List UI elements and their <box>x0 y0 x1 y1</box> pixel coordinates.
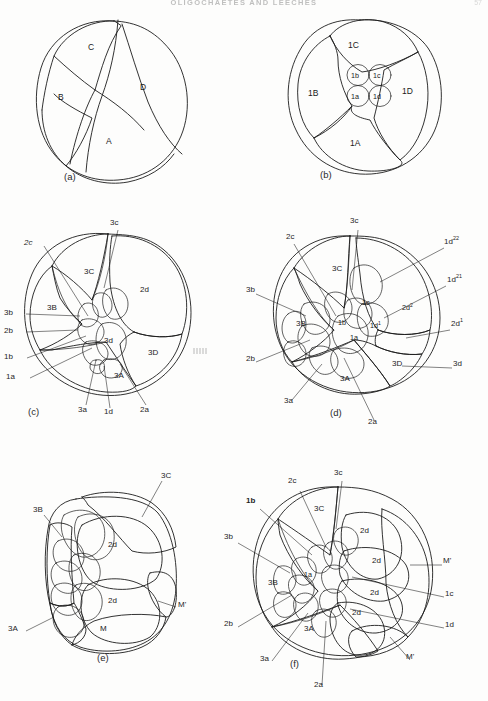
leader-label-1b-f: 1b <box>246 497 255 505</box>
leader-label-2a-d: 2a <box>368 418 377 426</box>
cell-label-1b: 1B <box>308 88 319 98</box>
leader-label-3d-d: 3d <box>453 360 462 368</box>
panel-d: 3C 3B 3A 3D 1b 1c 1a 1d1 2d2 3c 2c 1d22 … <box>244 212 488 432</box>
cell-label-2d-f-1: 2d <box>360 526 369 535</box>
leader-label-2c-f: 2c <box>288 477 296 485</box>
running-head: OLIGOCHAETES AND LEECHES <box>0 0 488 7</box>
leader-label-1d21-d: 1d21 <box>447 276 462 284</box>
leader-label-1b: 1b <box>4 353 13 361</box>
cell-label-3B: 3B <box>47 303 57 312</box>
cell-label-1a-f: 1a <box>304 570 312 579</box>
leader-label-3a-d: 3a <box>284 397 293 405</box>
panel-caption-f: (f) <box>290 658 299 669</box>
leader-label-2c-d: 2c <box>286 233 294 241</box>
leader-label-3a: 3a <box>78 406 87 414</box>
leader-label-3c-f: 3c <box>334 469 342 477</box>
panel-caption-a: (a) <box>64 171 76 182</box>
leader-label-2a-f: 2a <box>314 681 323 689</box>
cell-label-1a-d: 1a <box>350 333 358 342</box>
leader-label-Mprime-f-right: M' <box>443 557 451 565</box>
leader-label-3A-e: 3A <box>8 625 18 633</box>
panel-a: C B D A (a) <box>18 14 198 194</box>
cell-label-c: C <box>88 42 94 52</box>
panel-caption-b: (b) <box>320 169 332 180</box>
leader-label-2c: 2c <box>24 239 32 247</box>
leader-label-1a: 1a <box>6 373 15 381</box>
leader-label-1c-f: 1c <box>445 590 453 598</box>
cell-label-3C-d: 3C <box>332 264 342 273</box>
leader-label-2b-f: 2b <box>224 620 233 628</box>
leader-label-3b-d: 3b <box>246 286 255 294</box>
panel-caption-d: (d) <box>330 407 342 418</box>
panel-f: 3C 3B 3A 1a 2d 2d 2d 2d 3c 2c 1b 3b 2b 3… <box>220 455 488 701</box>
micromere-label-1d: 1d <box>373 92 381 101</box>
cell-label-3A-f: 3A <box>304 624 314 633</box>
leader-label-Mprime-f-bottom: M' <box>406 653 414 661</box>
cell-label-a: A <box>106 136 112 146</box>
micromere-label-1c: 1c <box>373 71 381 80</box>
cell-label-1d1-d: 1d1 <box>370 320 381 330</box>
cell-label-2d-e-top: 2d <box>108 540 117 549</box>
leader-label-2b: 2b <box>4 327 13 335</box>
panel-caption-e: (e) <box>97 652 109 663</box>
cell-label-2d-f-2: 2d <box>372 556 381 565</box>
cell-label-1a: 1A <box>350 138 361 148</box>
figure-page: OLIGOCHAETES AND LEECHES 57 <box>0 0 488 701</box>
leader-label-3c-d: 3c <box>350 217 358 225</box>
panel-c: 3C 3B 2d 3d 3D 3A 2c 3c 3b 2b 1b 1a 3a 1… <box>0 212 244 432</box>
cell-label-2d-f-3: 2d <box>370 588 379 597</box>
panel-b: 1C 1B 1D 1A 1b 1c 1a 1d (b) <box>272 14 452 194</box>
cell-label-2d2-d: 2d2 <box>402 302 413 312</box>
cell-label-2d-e-bottom: 2d <box>108 596 117 605</box>
leader-label-3B-e: 3B <box>33 506 43 514</box>
cell-label-3d: 3d <box>104 336 113 345</box>
panel-c-drawing: 3C 3B 2d 3d 3D 3A <box>0 212 244 432</box>
leader-label-3C-e: 3C <box>161 472 171 480</box>
cell-label-d: D <box>140 82 146 92</box>
leader-label-2b-d: 2b <box>246 355 255 363</box>
leader-label-2d1-d: 2d1 <box>451 320 463 328</box>
cell-label-3B-f: 3B <box>268 578 278 587</box>
leader-label-1d-f: 1d <box>445 621 454 629</box>
panel-e-drawing: 2d 2d M <box>0 455 244 701</box>
panel-f-drawing: 3C 3B 3A 1a 2d 2d 2d 2d <box>220 455 488 701</box>
cell-label-2d-f-4: 2d <box>352 608 361 617</box>
micromere-label-1b: 1b <box>351 71 359 80</box>
micromere-label-1a: 1a <box>351 92 359 101</box>
leader-label-2a: 2a <box>140 406 149 414</box>
cell-label-3D: 3D <box>148 348 158 357</box>
leader-label-3b: 3b <box>4 309 13 317</box>
cell-label-1d: 1D <box>402 86 413 96</box>
cell-label-2d: 2d <box>140 285 149 294</box>
leader-label-1d: 1d <box>104 408 113 416</box>
cell-label-3D-d: 3D <box>392 359 402 368</box>
cell-label-3C: 3C <box>84 267 94 276</box>
cell-label-3C-f: 3C <box>314 504 324 513</box>
cell-label-1c-d: 1c <box>362 298 370 307</box>
leader-label-1d22-d: 1d22 <box>444 238 459 246</box>
cell-label-M-e: M <box>100 624 107 633</box>
cell-label-1b-d: 1b <box>338 318 346 327</box>
panel-a-drawing: C B D A <box>18 14 198 194</box>
cell-label-1c: 1C <box>348 40 359 50</box>
leader-label-3a-f: 3a <box>260 655 269 663</box>
folio-number: 57 <box>474 0 482 6</box>
leader-label-Mprime-e: M' <box>178 601 186 609</box>
panel-b-drawing: 1C 1B 1D 1A 1b 1c 1a 1d <box>272 14 452 194</box>
cell-label-3B-d: 3B <box>296 319 306 328</box>
cell-label-3A-d: 3A <box>340 374 350 383</box>
cell-label-b: B <box>58 92 64 102</box>
leader-label-3c: 3c <box>110 219 118 227</box>
panel-caption-c: (c) <box>28 406 39 417</box>
panel-e: 2d 2d M 3C 3B 3A M' (e) <box>0 455 244 701</box>
cell-label-3A: 3A <box>114 371 124 380</box>
leader-label-3b-f: 3b <box>224 533 233 541</box>
